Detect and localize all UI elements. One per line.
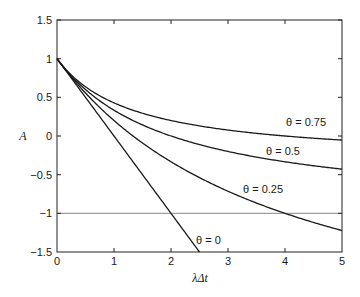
y-tick-label: 0 — [46, 130, 52, 142]
x-tick-label: 0 — [54, 255, 60, 267]
y-tick-label: 1.5 — [37, 14, 52, 26]
x-tick-label: 4 — [282, 255, 288, 267]
y-tick-label: 0.5 — [37, 91, 52, 103]
x-ticks — [114, 20, 285, 252]
y-tick-labels: 1.5 1 0.5 0 −0.5 −1 −1.5 — [30, 14, 52, 258]
x-tick-label: 1 — [111, 255, 117, 267]
y-axis-label: A — [18, 129, 27, 143]
plot-frame — [57, 20, 342, 252]
x-tick-label: 2 — [168, 255, 174, 267]
curve-label-theta-025: θ = 0.25 — [243, 183, 283, 195]
curve-label-theta-05: θ = 0.5 — [266, 145, 300, 157]
y-tick-label: 1 — [46, 53, 52, 65]
chart: 1.5 1 0.5 0 −0.5 −1 −1.5 0 1 2 3 4 5 λΔt… — [0, 0, 360, 297]
x-tick-labels: 0 1 2 3 4 5 — [54, 255, 345, 267]
x-tick-label: 5 — [339, 255, 345, 267]
y-tick-label: −1.5 — [30, 246, 52, 258]
curve-theta-0 — [57, 59, 200, 252]
x-tick-label: 3 — [225, 255, 231, 267]
x-axis-label: λΔt — [191, 271, 208, 285]
y-tick-label: −0.5 — [30, 169, 52, 181]
curve-label-theta-075: θ = 0.75 — [286, 116, 326, 128]
y-tick-label: −1 — [39, 207, 52, 219]
curve-label-theta-0: θ = 0 — [196, 234, 221, 246]
